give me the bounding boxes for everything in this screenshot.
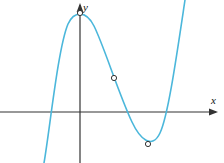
y-axis-group: y [77, 1, 88, 163]
marker-local-minimum [145, 141, 150, 146]
x-axis-group: x [0, 94, 218, 115]
x-axis-arrowhead [209, 109, 218, 116]
marker-local-maximum [77, 10, 82, 15]
coordinate-plane: x y [0, 0, 224, 163]
marker-group [77, 10, 150, 146]
x-axis-label: x [210, 94, 216, 106]
y-axis-label: y [82, 1, 88, 13]
cubic-curve [44, 0, 185, 163]
marker-inflection-point [111, 75, 116, 80]
graph-figure: x y [0, 0, 224, 163]
